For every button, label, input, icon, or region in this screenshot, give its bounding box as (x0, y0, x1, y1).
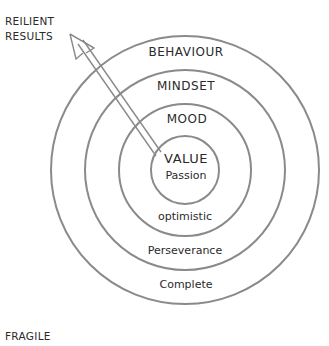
perseverance-label: Perseverance (148, 244, 222, 257)
behaviour-label: BEHAVIOUR (148, 45, 223, 59)
mindset-label: MINDSET (157, 79, 215, 93)
fragile-label: FRAGILE (5, 329, 51, 344)
complete-label: Complete (159, 278, 212, 291)
mood-label: MOOD (167, 112, 207, 126)
resilient-label-line2: RESULTS (5, 29, 54, 44)
value-label: VALUE (164, 151, 208, 166)
passion-label: Passion (165, 169, 206, 182)
resilient-label-line1: REILIENT (5, 14, 54, 29)
arrow-icon (70, 34, 161, 156)
resilient-results-label: REILIENT RESULTS (5, 14, 54, 44)
optimistic-label: optimistic (158, 210, 212, 223)
